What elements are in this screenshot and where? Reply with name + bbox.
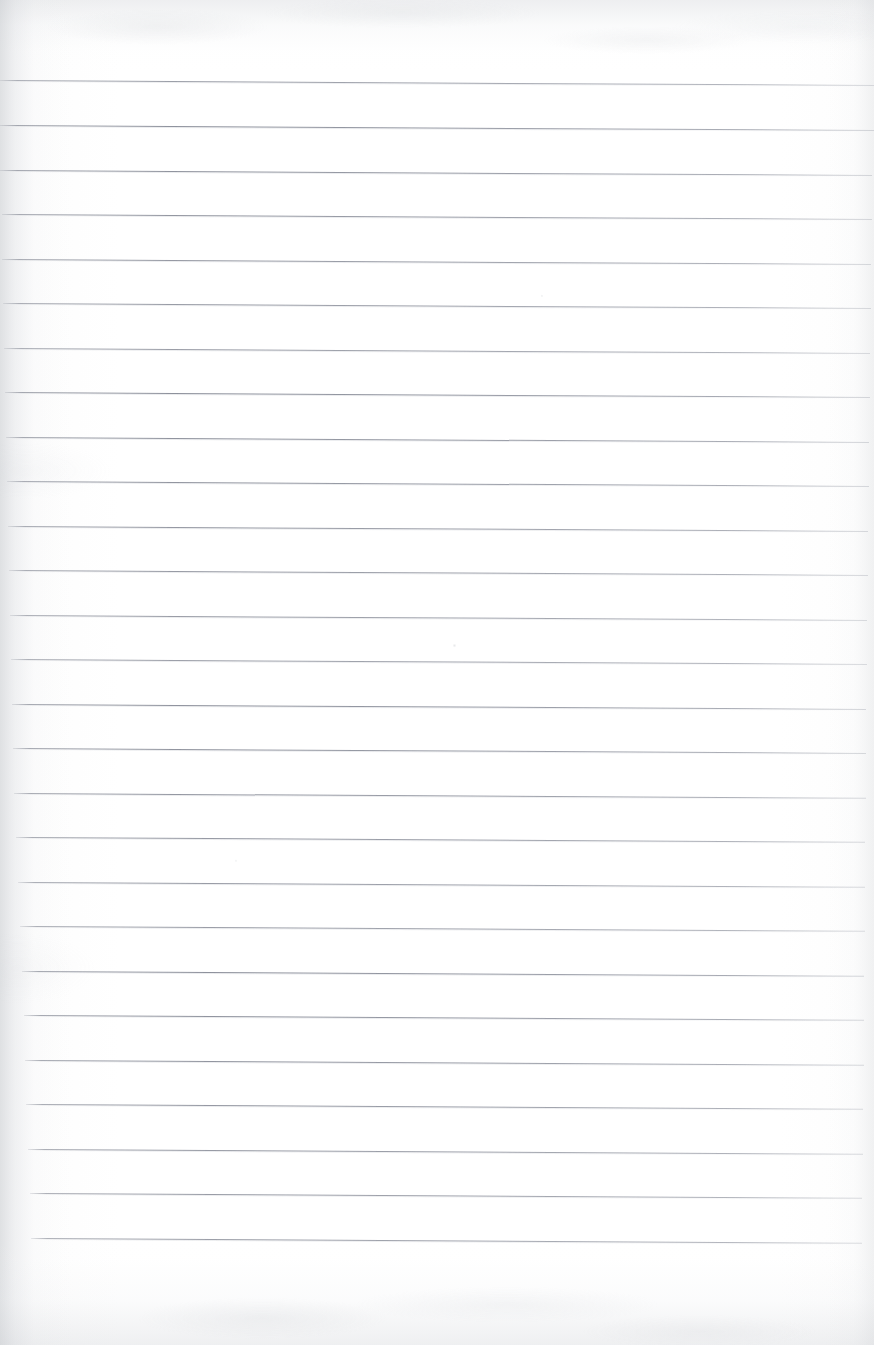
notebook-page xyxy=(0,0,874,1345)
page-content-text[interactable] xyxy=(0,80,874,1240)
